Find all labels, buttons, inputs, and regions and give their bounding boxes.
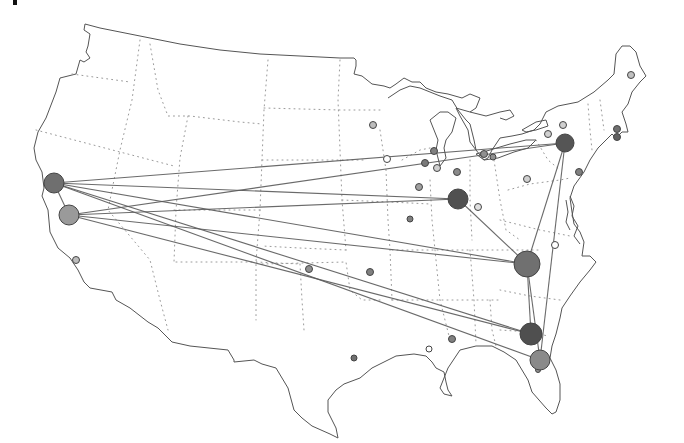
route-sf-bay-to-central-florida [54, 183, 540, 360]
great-lakes [388, 86, 548, 166]
route-sf-bay-to-ohio-valley [54, 183, 458, 199]
airport-node [449, 336, 456, 343]
route-sf-bay-to-upstate-new-york [54, 143, 565, 183]
hub-airport-nodes [44, 134, 574, 370]
airport-node [367, 269, 374, 276]
airport-node [422, 160, 429, 167]
airport-node [614, 126, 621, 133]
airport-node [426, 346, 432, 352]
hub-node-sf-bay [44, 173, 64, 193]
hub-node-north-florida [520, 323, 542, 345]
airport-node [73, 257, 80, 264]
hub-node-ohio-valley [448, 189, 468, 209]
airport-node [576, 169, 583, 176]
map-container [0, 0, 684, 443]
airport-node [434, 165, 441, 172]
airport-node [370, 122, 377, 129]
airport-node [384, 156, 391, 163]
airport-node [524, 176, 531, 183]
airport-node [628, 72, 635, 79]
airport-node [490, 154, 496, 160]
airport-node [454, 169, 461, 176]
airport-node [552, 242, 559, 249]
hub-node-carolinas [514, 251, 540, 277]
route-carolinas-to-central-florida [527, 264, 540, 360]
airport-node [351, 355, 357, 361]
airport-node [431, 148, 438, 155]
hub-node-upstate-new-york [556, 134, 574, 152]
hub-node-central-california [59, 205, 79, 225]
airport-node [614, 134, 621, 141]
airport-node [407, 216, 413, 222]
airport-node [475, 204, 482, 211]
airport-node [545, 131, 552, 138]
route-central-california-to-carolinas [69, 215, 527, 264]
us-map [0, 0, 684, 443]
route-upstate-new-york-to-carolinas [527, 143, 565, 264]
flight-routes [54, 143, 565, 360]
route-upstate-new-york-to-central-florida [540, 143, 565, 360]
airport-node [560, 122, 567, 129]
hub-node-central-florida [530, 350, 550, 370]
airport-node [416, 184, 423, 191]
airport-node [306, 266, 313, 273]
airport-node [481, 151, 488, 158]
route-central-california-to-upstate-new-york [69, 143, 565, 215]
route-central-california-to-north-florida [69, 215, 531, 334]
